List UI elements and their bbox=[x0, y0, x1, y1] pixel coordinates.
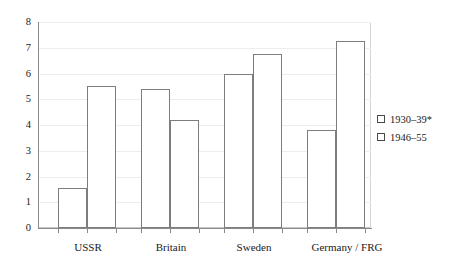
x-axis-line bbox=[38, 228, 372, 229]
x-tick-4 bbox=[170, 228, 171, 233]
x-axis-label-germany-frg: Germany / FRG bbox=[292, 241, 402, 254]
bar-germany-1946-55 bbox=[336, 41, 365, 228]
legend-swatch-icon bbox=[377, 115, 385, 123]
bar-ussr-1930-39 bbox=[58, 188, 87, 228]
x-tick-10 bbox=[336, 228, 337, 233]
x-tick-5 bbox=[199, 228, 200, 233]
bar-sweden-1946-55 bbox=[253, 54, 282, 228]
x-tick-0 bbox=[58, 228, 59, 233]
y-tick-label-6: 6 bbox=[0, 69, 31, 79]
legend-swatch-icon bbox=[377, 133, 385, 141]
bar-britain-1946-55 bbox=[170, 120, 199, 228]
bars-layer bbox=[38, 22, 371, 228]
bar-ussr-1946-55 bbox=[87, 86, 116, 228]
x-tick-6 bbox=[224, 228, 225, 233]
x-tick-11 bbox=[365, 228, 366, 233]
legend-item-1946-55[interactable]: 1946–55 bbox=[377, 128, 432, 146]
x-axis-label-sweden: Sweden bbox=[209, 241, 299, 254]
y-tick-label-1: 1 bbox=[0, 197, 31, 207]
x-axis-label-britain: Britain bbox=[126, 241, 216, 254]
y-tick-label-5: 5 bbox=[0, 94, 31, 104]
y-tick-label-7: 7 bbox=[0, 43, 31, 53]
y-tick-label-0: 0 bbox=[0, 223, 31, 233]
bar-sweden-1930-39 bbox=[224, 74, 253, 229]
legend: 1930–39* 1946–55 bbox=[377, 110, 432, 146]
x-tick-2 bbox=[116, 228, 117, 233]
legend-item-label: 1946–55 bbox=[390, 132, 427, 143]
y-tick-label-3: 3 bbox=[0, 146, 31, 156]
bar-britain-1930-39 bbox=[141, 89, 170, 228]
legend-item-label: 1930–39* bbox=[390, 114, 432, 125]
legend-item-1930-39[interactable]: 1930–39* bbox=[377, 110, 432, 128]
y-tick-label-2: 2 bbox=[0, 172, 31, 182]
x-tick-9 bbox=[307, 228, 308, 233]
y-tick-label-4: 4 bbox=[0, 120, 31, 130]
y-tick-label-8: 8 bbox=[0, 17, 31, 27]
bar-chart: 8 7 6 5 4 3 2 1 0 USSR Britain Sweden Ge… bbox=[0, 0, 450, 268]
x-tick-8 bbox=[282, 228, 283, 233]
bar-germany-1930-39 bbox=[307, 130, 336, 228]
x-axis-label-ussr: USSR bbox=[43, 241, 133, 254]
x-tick-7 bbox=[253, 228, 254, 233]
x-tick-3 bbox=[141, 228, 142, 233]
x-tick-1 bbox=[87, 228, 88, 233]
